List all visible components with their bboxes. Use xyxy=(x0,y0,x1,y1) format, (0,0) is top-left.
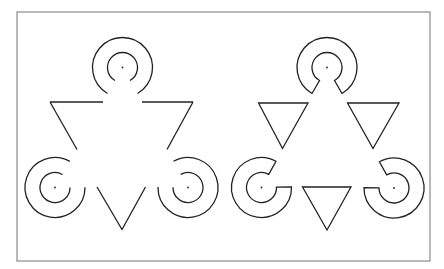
right-figure xyxy=(231,37,424,230)
outer-arc xyxy=(93,37,153,93)
inducer-bottom-left xyxy=(25,157,85,217)
bottom-vertex-segment xyxy=(97,187,146,230)
triangle-bottom-center xyxy=(303,187,352,230)
center-dot xyxy=(261,187,263,189)
center-dot xyxy=(187,187,189,189)
left-figure xyxy=(25,37,218,229)
inducer-top xyxy=(93,37,153,93)
left-edge-segment xyxy=(50,102,77,150)
center-dot xyxy=(122,67,124,69)
figure-canvas xyxy=(0,0,444,269)
center-dot xyxy=(393,187,395,189)
inducer-top xyxy=(297,37,357,93)
center-dot xyxy=(54,187,56,189)
inducer-bottom-right xyxy=(158,158,218,218)
triangle-upper-right xyxy=(348,103,400,149)
inner-arc xyxy=(108,52,138,80)
triangle-outline-segments xyxy=(50,102,193,230)
center-dot xyxy=(326,67,328,69)
notched-ring xyxy=(297,37,357,93)
kanizsa-figure xyxy=(0,0,444,269)
inducer-bottom-left xyxy=(231,158,291,218)
figure-frame xyxy=(17,12,430,261)
inducer-bottom-right xyxy=(364,158,424,218)
right-edge-segment xyxy=(167,102,193,150)
triangle-upper-left xyxy=(259,103,309,149)
